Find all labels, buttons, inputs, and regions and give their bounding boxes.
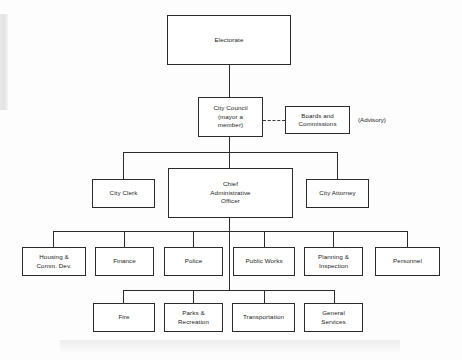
node-parks-recreation[interactable]: Parks & Recreation	[164, 303, 223, 332]
node-police[interactable]: Police	[164, 247, 223, 276]
node-transportation[interactable]: Transportation	[232, 303, 295, 332]
node-fire-label: Fire	[118, 313, 129, 321]
connector-bus-level4	[53, 231, 407, 232]
connector-city-council-down	[229, 137, 230, 152]
org-chart-canvas: Electorate City Council (mayor a member)…	[0, 0, 462, 360]
connector-bus-level5-to-parks	[193, 290, 194, 303]
connector-bus-level5	[123, 290, 334, 291]
node-personnel-label: Personnel	[393, 257, 422, 265]
connector-cao-trunk	[229, 218, 230, 290]
connector-bus-level5-to-transportation	[264, 290, 265, 303]
node-boards-commissions[interactable]: Boards and Commissions	[285, 106, 350, 134]
connector-bus-level4-to-housing	[53, 231, 54, 247]
connector-bus-level5-to-fire	[123, 290, 124, 303]
connector-bus-level3-to-city-clerk	[123, 152, 124, 179]
node-public-works-label: Public Works	[245, 257, 282, 265]
node-finance[interactable]: Finance	[95, 247, 154, 276]
node-city-clerk-label: City Clerk	[110, 189, 138, 197]
connector-electorate-to-city-council	[229, 65, 230, 97]
node-city-attorney-label: City Attorney	[319, 189, 355, 197]
node-personnel[interactable]: Personnel	[375, 247, 440, 276]
scan-bottom-ghost-artifact	[60, 340, 400, 354]
node-city-attorney[interactable]: City Attorney	[306, 179, 369, 208]
node-city-council[interactable]: City Council (mayor a member)	[198, 97, 263, 137]
node-electorate[interactable]: Electorate	[167, 15, 291, 65]
connector-bus-level4-to-planning	[333, 231, 334, 247]
connector-bus-level4-to-police	[193, 231, 194, 247]
node-general-services-label: General Services	[321, 309, 346, 326]
node-parks-recreation-label: Parks & Recreation	[178, 309, 209, 326]
node-boards-commissions-label: Boards and Commissions	[298, 112, 336, 129]
node-fire[interactable]: Fire	[93, 303, 155, 332]
node-housing-comm-dev-label: Housing & Comm. Dev.	[37, 253, 72, 270]
connector-bus-level3-to-city-attorney	[337, 152, 338, 179]
node-city-clerk[interactable]: City Clerk	[92, 179, 155, 208]
node-finance-label: Finance	[113, 257, 136, 265]
connector-bus-level4-to-finance	[124, 231, 125, 247]
node-city-council-label: City Council (mayor a member)	[213, 104, 247, 129]
connector-advisory-dashed	[263, 120, 285, 121]
node-chief-administrative-officer-label: Chief Administrative Officer	[210, 180, 250, 205]
connector-bus-level4-to-public-works	[264, 231, 265, 247]
connector-bus-level3-to-cao	[229, 152, 230, 168]
node-planning-inspection-label: Planning & Inspection	[318, 253, 349, 270]
node-housing-comm-dev[interactable]: Housing & Comm. Dev.	[22, 247, 86, 276]
annotation-advisory: (Advisory)	[358, 115, 386, 124]
scan-edge-artifact	[0, 14, 8, 110]
node-police-label: Police	[185, 257, 202, 265]
node-public-works[interactable]: Public Works	[233, 247, 295, 276]
node-planning-inspection[interactable]: Planning & Inspection	[304, 247, 363, 276]
node-chief-administrative-officer[interactable]: Chief Administrative Officer	[168, 168, 293, 218]
connector-bus-level3	[123, 152, 337, 153]
node-transportation-label: Transportation	[243, 313, 284, 321]
node-general-services[interactable]: General Services	[304, 303, 363, 332]
connector-bus-level4-to-personnel	[407, 231, 408, 247]
connector-bus-level5-to-general-services	[334, 290, 335, 303]
node-electorate-label: Electorate	[215, 36, 244, 44]
